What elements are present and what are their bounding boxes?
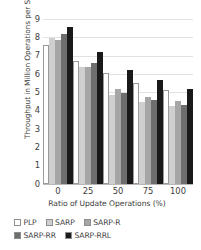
x-axis-line [43, 184, 193, 185]
x-tick-label: 0 [43, 186, 73, 197]
x-tick-label: 100 [163, 186, 193, 197]
bar [139, 102, 145, 184]
bar-group [43, 19, 73, 184]
legend-swatch-icon [84, 219, 91, 226]
legend-item[interactable]: SARP [46, 218, 75, 227]
bar [121, 93, 127, 184]
bar [79, 67, 85, 184]
bar [49, 38, 55, 184]
bar [133, 83, 139, 184]
bar [181, 105, 187, 184]
bar [85, 67, 91, 185]
bar [109, 95, 115, 184]
legend-item[interactable]: SARP-RRL [65, 231, 111, 240]
legend-item[interactable]: SARP-R [84, 218, 121, 227]
legend-label: SARP-RRL [74, 231, 111, 240]
legend-label: SARP-R [93, 218, 120, 227]
y-tick-label: 3 [28, 125, 40, 134]
bar [73, 61, 79, 184]
bar [43, 45, 49, 185]
bar [115, 89, 121, 185]
bar [55, 40, 61, 184]
legend-item[interactable]: SARP-RR [14, 231, 56, 240]
y-tick-label: 2 [28, 143, 40, 152]
legend-label: SARP [55, 218, 75, 227]
y-tick-label: 5 [28, 88, 40, 97]
y-tick-label: 0 [28, 180, 40, 189]
legend-item[interactable]: PLP [14, 218, 37, 227]
y-tick-label: 4 [28, 106, 40, 115]
bar [91, 63, 97, 184]
bar [61, 34, 67, 185]
bar [175, 101, 181, 184]
y-tick-label: 9 [28, 15, 40, 24]
x-tick-label: 75 [133, 186, 163, 197]
legend-row-primary: PLPSARPSARP-R [14, 216, 190, 229]
legend-swatch-icon [14, 219, 21, 226]
bar-group [133, 19, 163, 184]
legend-label: PLP [24, 218, 37, 227]
bar [169, 106, 175, 184]
y-tick-label: 8 [28, 33, 40, 42]
bar-group [73, 19, 103, 184]
x-axis-tick-labels: 0255075100 [43, 186, 193, 198]
y-axis-tick-labels: 0123456789 [25, 0, 40, 250]
plot-area [43, 19, 193, 184]
y-tick-label: 1 [28, 161, 40, 170]
legend-swatch-icon [65, 232, 72, 239]
x-tick-label: 25 [73, 186, 103, 197]
x-tick-label: 50 [103, 186, 133, 197]
bar [151, 100, 157, 184]
x-axis-title: Ratio of Update Operations (%) [18, 199, 196, 208]
chart-legend: PLPSARPSARP-R SARP-RRSARP-RRL [14, 216, 190, 242]
bar [103, 73, 109, 184]
y-tick-label: 7 [28, 51, 40, 60]
bar-chart-figure: Throughput in Million Operations per Sec… [0, 0, 201, 250]
y-tick-label: 6 [28, 70, 40, 79]
bar-group [163, 19, 193, 184]
legend-swatch-icon [14, 232, 21, 239]
bar [187, 89, 193, 184]
legend-row-secondary: SARP-RRSARP-RRL [14, 229, 190, 242]
bar-group [103, 19, 133, 184]
legend-label: SARP-RR [24, 231, 56, 240]
bar [145, 97, 151, 184]
legend-swatch-icon [46, 219, 53, 226]
bar [163, 90, 169, 184]
